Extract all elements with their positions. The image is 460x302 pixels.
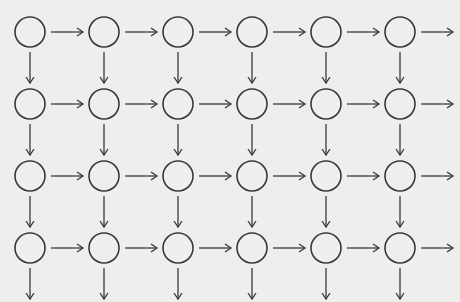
right-arrow [51,100,83,108]
node-circle [89,89,119,119]
right-arrow [51,28,83,36]
right-arrow [421,244,453,252]
node-circle [311,17,341,47]
node-circle [385,89,415,119]
right-arrow [347,28,379,36]
down-arrow [100,124,108,155]
node-circle [237,233,267,263]
right-arrow [51,172,83,180]
down-arrow [248,52,256,83]
node-circle [311,89,341,119]
down-arrow [396,52,404,83]
down-arrow [174,268,182,299]
right-arrow [421,100,453,108]
down-arrow [174,124,182,155]
down-arrow [26,124,34,155]
down-arrow [322,196,330,227]
right-arrow [347,244,379,252]
down-arrow [100,196,108,227]
down-arrow [26,196,34,227]
node-circle [15,233,45,263]
down-arrow [396,268,404,299]
right-arrow [347,172,379,180]
node-circle [163,161,193,191]
down-arrow [100,52,108,83]
node-circle [311,161,341,191]
node-circle [237,17,267,47]
node-circle [385,17,415,47]
down-arrow [174,196,182,227]
node-circle [15,161,45,191]
node-circle [89,17,119,47]
right-arrow [421,28,453,36]
down-arrow [396,196,404,227]
down-arrow [322,52,330,83]
right-arrow [125,244,157,252]
right-arrow [199,172,231,180]
down-arrow [26,52,34,83]
right-arrow [125,28,157,36]
node-circle [163,89,193,119]
down-arrow [248,124,256,155]
down-arrow [322,268,330,299]
node-circle [89,161,119,191]
down-arrow [322,124,330,155]
right-arrow [273,28,305,36]
right-arrow [125,100,157,108]
right-arrow [273,100,305,108]
down-arrow [248,196,256,227]
right-arrow [347,100,379,108]
down-arrow [396,124,404,155]
node-circle [385,233,415,263]
node-circle [163,17,193,47]
node-circle [237,161,267,191]
right-arrow [51,244,83,252]
right-arrow [421,172,453,180]
node-circle [237,89,267,119]
node-circle [89,233,119,263]
right-arrow [273,244,305,252]
grid-diagram [0,0,460,302]
node-circle [15,17,45,47]
down-arrow [174,52,182,83]
right-arrow [273,172,305,180]
node-circle [163,233,193,263]
right-arrow [199,100,231,108]
node-circle [15,89,45,119]
node-circle [385,161,415,191]
down-arrow [26,268,34,299]
right-arrow [199,28,231,36]
node-circle [311,233,341,263]
down-arrow [248,268,256,299]
right-arrow [199,244,231,252]
right-arrow [125,172,157,180]
down-arrow [100,268,108,299]
